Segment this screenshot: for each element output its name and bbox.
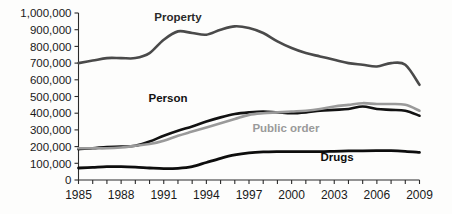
crime-arrests-line-chart: 1,000,000900,000800,000700,000600,000500… bbox=[0, 0, 452, 214]
y-tick-label: 800,000 bbox=[30, 41, 72, 53]
series-label-public-order: Public order bbox=[252, 122, 320, 134]
series-line-property bbox=[79, 26, 420, 85]
y-tick-label: 900,000 bbox=[30, 24, 72, 36]
y-tick-label: 400,000 bbox=[30, 107, 72, 119]
y-tick-label: 600,000 bbox=[30, 74, 72, 86]
series-group bbox=[79, 26, 420, 168]
series-label-person: Person bbox=[149, 92, 188, 104]
x-tick-label: 1991 bbox=[150, 188, 177, 202]
series-label-group: PropertyPersonPublic orderDrugs bbox=[149, 11, 354, 163]
x-tick-label: 1994 bbox=[193, 188, 220, 202]
x-tick-label: 2006 bbox=[364, 188, 391, 202]
series-label-property: Property bbox=[154, 11, 202, 23]
x-tick-label: 2000 bbox=[278, 188, 305, 202]
x-tick-label: 1988 bbox=[108, 188, 135, 202]
x-tick-label: 2009 bbox=[406, 188, 433, 202]
y-tick-label: 300,000 bbox=[30, 124, 72, 136]
series-line-public-order bbox=[79, 103, 420, 148]
x-tick-label: 2003 bbox=[321, 188, 348, 202]
x-tick-label: 1997 bbox=[236, 188, 263, 202]
series-line-person bbox=[79, 107, 420, 150]
y-tick-label: 1,000,000 bbox=[20, 7, 71, 19]
y-tick-label: 200,000 bbox=[30, 141, 72, 153]
y-tick-label: 0 bbox=[65, 174, 71, 186]
y-tick-label: 700,000 bbox=[30, 57, 72, 69]
x-tick-label: 1985 bbox=[65, 188, 92, 202]
x-axis-group: 198519881991199419972000200320062009 bbox=[65, 180, 433, 202]
series-line-drugs bbox=[79, 151, 420, 169]
y-tick-label: 100,000 bbox=[30, 158, 72, 170]
chart-svg: 1,000,000900,000800,000700,000600,000500… bbox=[0, 0, 452, 214]
y-tick-label: 500,000 bbox=[30, 91, 72, 103]
series-label-drugs: Drugs bbox=[320, 151, 353, 163]
y-axis-group: 1,000,000900,000800,000700,000600,000500… bbox=[20, 7, 78, 186]
